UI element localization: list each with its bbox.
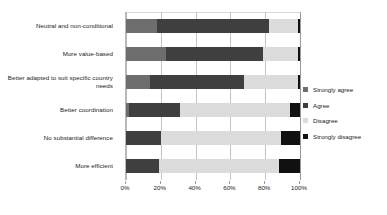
bar-segment <box>298 75 300 89</box>
gridline-0 <box>126 12 127 180</box>
bar-segment <box>126 47 166 61</box>
gridline-20 <box>161 12 162 180</box>
bar-segment <box>180 103 290 117</box>
category-label-2: Better adapted to suit specific country … <box>0 74 113 89</box>
bar-row <box>126 19 300 33</box>
category-label-5: More efficient <box>0 162 113 170</box>
bar-segment <box>150 75 244 89</box>
legend-swatch-icon <box>303 134 308 139</box>
bar-row <box>126 103 300 117</box>
category-label-1: More value-based <box>0 50 113 58</box>
legend-item[interactable]: Agree <box>303 98 385 114</box>
x-axis-ticks: 0%20%40%60%80%100% <box>125 181 299 195</box>
category-label-4: No substantial difference <box>0 134 113 142</box>
legend-label: Strongly disagree <box>313 133 361 140</box>
category-label-3: Better coordination <box>0 106 113 114</box>
legend-swatch-icon <box>303 103 308 108</box>
x-tick-label: 40% <box>188 184 200 191</box>
gridline-40 <box>196 12 197 180</box>
bar-segment <box>244 75 298 89</box>
bar-segment <box>161 131 281 145</box>
bar-row <box>126 75 300 89</box>
bar-segment <box>126 75 150 89</box>
bar-segment <box>298 19 300 33</box>
gridline-80 <box>265 12 266 180</box>
x-tick-label: 0% <box>121 184 130 191</box>
category-axis-labels: Neutral and non-conditional More value-b… <box>0 12 118 180</box>
category-label-0: Neutral and non-conditional <box>0 22 113 30</box>
bar-segment <box>129 103 179 117</box>
x-tick-label: 80% <box>258 184 270 191</box>
legend-label: Disagree <box>313 117 338 124</box>
bar-segment <box>290 103 300 117</box>
legend-label: Agree <box>313 102 330 109</box>
bar-segment <box>166 47 263 61</box>
bar-segment <box>269 19 299 33</box>
bar-segment <box>281 131 300 145</box>
legend-item[interactable]: Disagree <box>303 113 385 129</box>
legend-swatch-icon <box>303 118 308 123</box>
bar-row <box>126 131 300 145</box>
gridline-100 <box>300 12 301 180</box>
bar-row <box>126 47 300 61</box>
bar-segment <box>157 19 268 33</box>
x-tick-label: 60% <box>223 184 235 191</box>
stacked-bar-chart: Neutral and non-conditional More value-b… <box>0 0 387 215</box>
bar-segment <box>279 159 300 173</box>
legend: Strongly agreeAgreeDisagreeStrongly disa… <box>303 82 385 144</box>
bar-segment <box>126 131 161 145</box>
legend-swatch-icon <box>303 87 308 92</box>
bar-segment <box>263 47 298 61</box>
x-tick-label: 20% <box>154 184 166 191</box>
bar-segment <box>126 159 159 173</box>
bar-row <box>126 159 300 173</box>
bar-segment <box>298 47 300 61</box>
legend-item[interactable]: Strongly disagree <box>303 129 385 145</box>
plot-area <box>125 12 300 180</box>
bar-segment <box>126 19 157 33</box>
plot-top-border <box>126 12 300 13</box>
x-tick-label: 100% <box>291 184 307 191</box>
legend-label: Strongly agree <box>313 86 353 93</box>
bar-segment <box>159 159 279 173</box>
legend-item[interactable]: Strongly agree <box>303 82 385 98</box>
gridline-60 <box>230 12 231 180</box>
